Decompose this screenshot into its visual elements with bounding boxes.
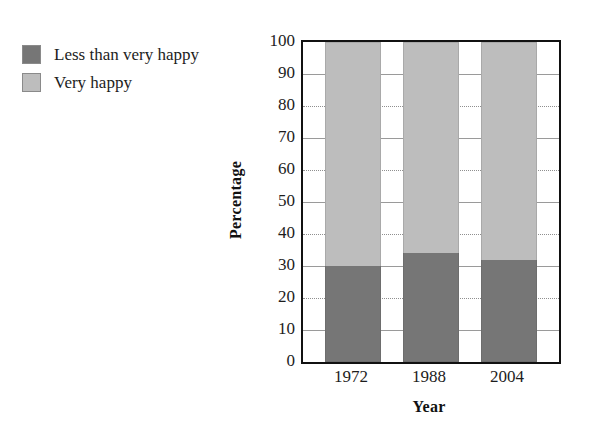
bar-segment-less-than-very-happy <box>325 266 381 362</box>
legend-swatch-very-happy <box>22 73 41 92</box>
y-axis-tick-label: 70 <box>261 128 295 145</box>
bar <box>325 42 381 362</box>
plot-inner <box>303 42 559 362</box>
legend-item-label: Very happy <box>54 73 132 92</box>
bar-segment-very-happy <box>325 42 381 266</box>
y-axis-title: Percentage <box>227 120 245 280</box>
bar <box>403 42 459 362</box>
bar-segment-less-than-very-happy <box>481 260 537 362</box>
y-axis-tick-label: 60 <box>261 160 295 177</box>
bar-segment-very-happy <box>403 42 459 253</box>
y-axis-tick-labels: 1009080706050403020100 <box>255 40 295 360</box>
legend-item-label: Less than very happy <box>54 45 199 64</box>
plot-area <box>301 40 561 364</box>
x-axis-tick-label: 1972 <box>306 368 396 385</box>
y-axis-tick-label: 80 <box>261 96 295 113</box>
bar-segment-less-than-very-happy <box>403 253 459 362</box>
y-axis-tick-label: 30 <box>261 256 295 273</box>
y-axis-tick-label: 100 <box>261 32 295 49</box>
y-axis-tick-label: 10 <box>261 320 295 337</box>
legend-item: Very happy <box>22 70 237 95</box>
x-axis-tick-labels: 197219882004 <box>301 368 557 392</box>
y-axis-tick-label: 40 <box>261 224 295 241</box>
bar-segment-very-happy <box>481 42 537 260</box>
x-axis-tick-label: 2004 <box>462 368 552 385</box>
y-axis-tick-label: 20 <box>261 288 295 305</box>
legend-item: Less than very happy <box>22 42 237 67</box>
y-axis-tick-label: 50 <box>261 192 295 209</box>
y-axis-tick-label: 0 <box>261 352 295 369</box>
x-axis-tick-label: 1988 <box>384 368 474 385</box>
chart-figure: Less than very happy Very happy Percenta… <box>0 0 603 425</box>
legend-swatch-less-than-very-happy <box>22 45 41 64</box>
chart-legend: Less than very happy Very happy <box>22 42 237 98</box>
y-axis-tick-label: 90 <box>261 64 295 81</box>
bar <box>481 42 537 362</box>
x-axis-title: Year <box>301 398 557 416</box>
